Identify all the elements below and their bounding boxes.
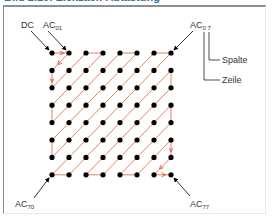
coefficient-dot [66, 155, 71, 160]
coefficient-dot [117, 155, 122, 160]
coefficient-dot [83, 155, 88, 160]
coefficient-dot [83, 68, 88, 73]
coefficient-dot [49, 120, 54, 125]
coefficient-dot [134, 155, 139, 160]
coefficient-dot [134, 120, 139, 125]
coefficient-dot [100, 137, 105, 142]
spalte-leader [209, 32, 220, 60]
coefficient-dot [100, 85, 105, 90]
coefficient-dot [151, 172, 156, 177]
coefficient-dot [168, 85, 173, 90]
coefficient-dot [168, 137, 173, 142]
coefficient-dot [134, 172, 139, 177]
coefficient-dot [168, 50, 173, 55]
coefficient-dot [168, 120, 173, 125]
coefficient-dot [168, 172, 173, 177]
coefficient-dot [168, 155, 173, 160]
ac77-pointer [174, 178, 190, 196]
coefficient-dot [151, 68, 156, 73]
coefficient-dot [66, 103, 71, 108]
coefficient-dot [66, 172, 71, 177]
coefficient-dot [117, 103, 122, 108]
coefficient-dot [117, 50, 122, 55]
coefficient-dot [83, 103, 88, 108]
coefficient-dot [151, 103, 156, 108]
coefficient-dot [83, 85, 88, 90]
coefficient-dot [100, 68, 105, 73]
coefficient-dot [151, 50, 156, 55]
coefficient-dot [100, 103, 105, 108]
coefficient-dot [134, 85, 139, 90]
coefficient-dot [66, 120, 71, 125]
coefficient-dot [100, 120, 105, 125]
coefficient-dot [49, 85, 54, 90]
coefficient-dot [49, 103, 54, 108]
ac01-pointer [48, 31, 66, 50]
label-ac01: AC01 [43, 20, 63, 31]
coefficient-dot [117, 137, 122, 142]
ac70-pointer [34, 178, 49, 198]
coefficient-dot [83, 50, 88, 55]
coefficient-dot [66, 85, 71, 90]
zeile-leader [204, 32, 220, 80]
label-ac07: AC0 7 [190, 20, 212, 31]
coefficient-dot [83, 120, 88, 125]
coefficient-dot [66, 137, 71, 142]
coefficient-dot [151, 137, 156, 142]
coefficient-dot [49, 172, 54, 177]
coefficient-dot [49, 137, 54, 142]
label-dc: DC [21, 20, 34, 30]
coefficient-dot [100, 155, 105, 160]
coefficient-dot [151, 155, 156, 160]
coefficient-dot [117, 68, 122, 73]
coefficient-dot [100, 50, 105, 55]
coefficient-dot [134, 103, 139, 108]
coefficient-dot [117, 85, 122, 90]
coefficient-dot [100, 172, 105, 177]
coefficient-dot [49, 155, 54, 160]
coefficient-dot [66, 68, 71, 73]
coefficient-dot [66, 50, 71, 55]
coefficient-dot [151, 120, 156, 125]
label-ac77: AC77 [190, 199, 210, 210]
label-ac70: AC70 [15, 199, 35, 210]
dc-pointer [31, 31, 49, 50]
ac07-pointer [174, 31, 193, 50]
coefficient-dot [49, 68, 54, 73]
coefficient-dot [134, 50, 139, 55]
coefficient-dot [151, 85, 156, 90]
coefficient-dot [117, 120, 122, 125]
coefficient-dot [49, 50, 54, 55]
coefficient-dot [134, 68, 139, 73]
zigzag-scan-diagram: DC AC01 AC0 7 Spalte Zeile AC70 AC77 [0, 0, 275, 223]
coefficient-dot [117, 172, 122, 177]
coefficient-dot [168, 103, 173, 108]
label-zeile: Zeile [222, 75, 242, 85]
coefficient-dot [134, 137, 139, 142]
coefficient-dot [83, 172, 88, 177]
coefficient-dot [168, 68, 173, 73]
label-spalte: Spalte [222, 55, 248, 65]
coefficient-dot [83, 137, 88, 142]
